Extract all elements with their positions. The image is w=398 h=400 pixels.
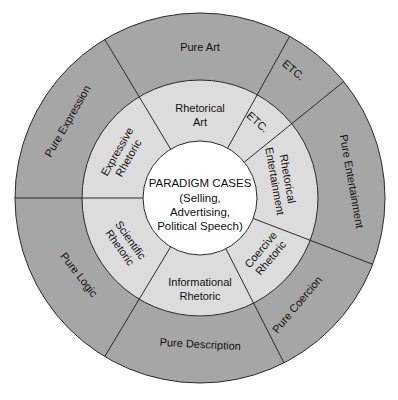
center-line-2: Advertising, [170, 206, 230, 218]
label-line: Art [193, 116, 207, 128]
center-line-3: Political Speech) [157, 220, 243, 232]
center-title: PARADIGM CASES [149, 177, 252, 189]
label-line: Informational [168, 276, 232, 288]
rhetoric-paradigm-diagram: PARADIGM CASES (Selling, Advertising, Po… [0, 0, 398, 400]
outer-label-pure-art: Pure Art [180, 41, 220, 53]
center-line-1: (Selling, [179, 192, 221, 204]
label-line: Rhetorical [175, 102, 225, 114]
label-line: Rhetoric [180, 290, 221, 302]
